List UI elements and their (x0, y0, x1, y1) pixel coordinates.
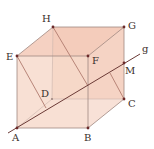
label-C: C (128, 98, 136, 109)
label-F: F (92, 55, 99, 66)
label-H: H (42, 13, 51, 24)
label-M: M (125, 65, 135, 76)
cube-diagram: A B C D E F G H M g (0, 0, 154, 149)
label-A: A (11, 132, 20, 143)
label-E: E (6, 51, 13, 62)
label-B: B (84, 132, 91, 143)
label-D: D (41, 88, 49, 99)
label-G: G (128, 20, 136, 31)
label-g: g (142, 43, 149, 54)
